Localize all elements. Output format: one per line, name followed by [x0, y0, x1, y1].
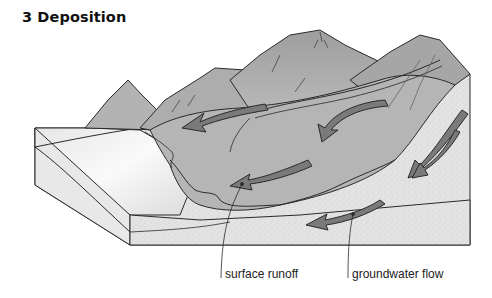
surface-runoff-label: surface runoff [225, 267, 298, 281]
deposition-diagram [0, 0, 492, 298]
groundwater-flow-label: groundwater flow [352, 267, 443, 281]
